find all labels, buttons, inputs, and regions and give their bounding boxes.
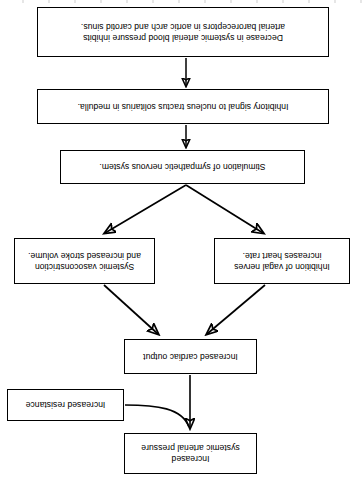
node-increased-systemic-arterial-pressure-line-2: systemic arterial pressure <box>141 443 239 454</box>
node-inhibitory-signal: Inhibitory signal to nucleus tractus sol… <box>37 89 329 124</box>
node-baroreceptors-line-2: arterial baroreceptors in aortic arch an… <box>81 21 285 32</box>
node-increased-resistance: Increased resistance <box>7 389 124 421</box>
edge-vasoconstriction-to-cardiac-output <box>104 285 158 334</box>
node-inhibitory-signal-line-1: Inhibitory signal to nucleus tractus sol… <box>78 101 289 112</box>
edge-sympathetic-to-vasoconstriction <box>105 185 186 233</box>
edge-vagal-to-cardiac-output <box>207 285 265 334</box>
node-increased-cardiac-output: Increased cardiac output <box>124 339 257 374</box>
edge-resistance-to-pressure <box>125 405 189 427</box>
node-baroreceptors-line-1: Decrease in systemic arterial blood pres… <box>81 32 285 43</box>
node-sympathetic-stimulation: Stimulation of sympathetic nervous syste… <box>60 150 305 184</box>
flowchart-canvas: Decrease in systemic arterial blood pres… <box>0 0 362 484</box>
node-increased-resistance-line-1: Increased resistance <box>26 400 106 411</box>
node-baroreceptors: Decrease in systemic arterial blood pres… <box>37 7 329 57</box>
node-systemic-vasoconstriction: Systemic vasoconstriction and increased … <box>14 238 155 284</box>
node-systemic-vasoconstriction-line-2: and increased stroke volume. <box>28 250 141 261</box>
node-systemic-vasoconstriction-line-1: Systemic vasoconstriction <box>28 261 141 272</box>
node-vagal-inhibition-line-1: Inhibition of vagal nerves <box>234 261 330 272</box>
node-increased-systemic-arterial-pressure: Increased systemic arterial pressure <box>124 433 257 474</box>
node-increased-cardiac-output-line-1: Increased cardiac output <box>143 351 238 362</box>
node-vagal-inhibition-line-2: increases heart rate. <box>234 250 330 261</box>
node-sympathetic-stimulation-line-1: Stimulation of sympathetic nervous syste… <box>99 162 265 173</box>
edge-sympathetic-to-vagal <box>186 185 263 233</box>
node-vagal-inhibition: Inhibition of vagal nerves increases hea… <box>214 238 350 284</box>
node-increased-systemic-arterial-pressure-line-1: Increased <box>141 454 239 465</box>
